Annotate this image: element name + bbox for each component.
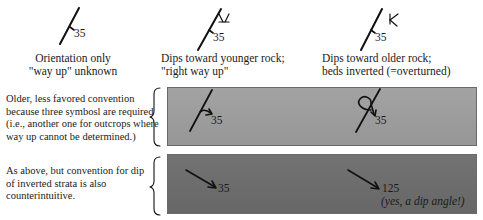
caption-line: Orientation only [8, 52, 138, 65]
caption-line: "way up" unknown [8, 65, 138, 78]
dip-value-plain: 35 [74, 27, 86, 39]
younging-y-inverted-icon [390, 14, 398, 26]
note-line: of inverted strata is also [6, 178, 144, 191]
dip-value-overturned: 35 [375, 31, 387, 43]
caption-line: beds inverted (=overturned) [322, 65, 450, 78]
dip-value-upright: 35 [213, 31, 225, 43]
caption-line: "right way up" [161, 65, 285, 78]
note-line: way up cannot be determined.) [6, 131, 159, 144]
caption-dips-toward-older: Dips toward older rock; beds inverted (=… [322, 52, 450, 78]
band1-dip-value-overturned: 35 [375, 114, 387, 126]
note-line: Older, less favored convention [6, 93, 159, 106]
strike-dip-symbol-younging-upright [198, 9, 229, 50]
caption-line: Dips toward younger rock; [161, 52, 285, 65]
younging-y-icon [219, 14, 229, 22]
caption-orientation-only: Orientation only "way up" unknown [8, 52, 138, 78]
strike-dip-symbol-younging-overturned [361, 9, 398, 50]
note-older-convention: Older, less favored convention because t… [6, 93, 159, 143]
caption-line: Dips toward older rock; [322, 52, 450, 65]
band1-dip-value-upright: 35 [211, 114, 223, 126]
note-line: counterintuitive. [6, 190, 144, 203]
brace-row-2 [150, 157, 160, 215]
band2-dip-value-upright: 35 [218, 182, 230, 194]
note-line: because three symbosl are required [6, 106, 159, 119]
band2-dip-value-overturned: 125 [382, 182, 399, 194]
caption-dips-toward-younger: Dips toward younger rock; "right way up" [161, 52, 285, 78]
note-line: (i.e., another one for outcrops where [6, 118, 159, 131]
note-counterintuitive-convention: As above, but convention for dip of inve… [6, 165, 144, 203]
dip-angle-remark: (yes, a dip angle!) [381, 195, 465, 207]
note-line: As above, but convention for dip [6, 165, 144, 178]
